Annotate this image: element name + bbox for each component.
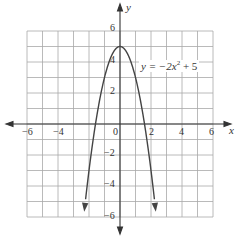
equation-label: y = −2x2 + 5 bbox=[139, 60, 199, 72]
equation-prefix: y = −2x bbox=[141, 60, 177, 72]
y-axis-up-arrow-icon bbox=[118, 4, 123, 11]
tick-y-4: 4 bbox=[110, 55, 115, 65]
tick-x-neg4: −4 bbox=[53, 127, 64, 137]
curve-right-arrow-icon bbox=[152, 202, 158, 211]
tick-x-0: 0 bbox=[113, 127, 118, 137]
y-axis-label: y bbox=[126, 2, 131, 13]
parabola-chart bbox=[0, 0, 240, 240]
y-axis-down-arrow-icon bbox=[118, 227, 123, 234]
equation-suffix: + 5 bbox=[180, 60, 197, 72]
x-axis-label: x bbox=[229, 125, 234, 136]
tick-x-6: 6 bbox=[209, 127, 214, 137]
tick-y-neg2: −2 bbox=[104, 148, 115, 158]
tick-y-2: 2 bbox=[110, 86, 115, 96]
tick-x-neg6: −6 bbox=[22, 127, 33, 137]
tick-x-4: 4 bbox=[179, 127, 184, 137]
tick-y-neg6: −6 bbox=[104, 211, 115, 221]
x-axis-left-arrow-icon bbox=[6, 122, 13, 127]
tick-x-2: 2 bbox=[149, 127, 154, 137]
curve-left-arrow-icon bbox=[82, 202, 88, 211]
tick-y-neg4: −4 bbox=[104, 179, 115, 189]
tick-y-6: 6 bbox=[110, 23, 115, 33]
